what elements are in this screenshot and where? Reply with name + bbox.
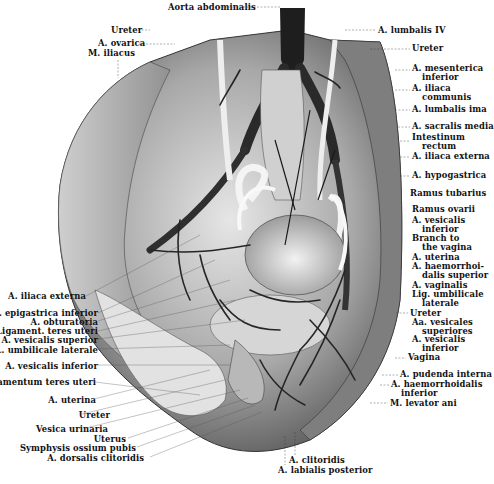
label-subline: dalis superior bbox=[412, 271, 488, 280]
label-l-umbilicale-laterale: L. umbilicale laterale bbox=[0, 346, 98, 355]
label-symphysis-ossium-pubis: Symphysis ossium pubis bbox=[20, 444, 136, 453]
label-a-haemorrhoidalis-superior: A. haemorrhoi-dalis superior bbox=[412, 262, 488, 280]
label-a-ovarica: A. ovarica bbox=[98, 39, 145, 48]
label-ureter-right-1: Ureter bbox=[412, 44, 443, 53]
label-a-clitoridis: A. clitoridis bbox=[289, 456, 345, 465]
label-a-uterina-left: A. uterina bbox=[48, 396, 96, 405]
label-subline: communis bbox=[412, 93, 471, 102]
label-a-vesicalis-inferior-right-1: A. vesicalisinferior bbox=[412, 216, 465, 234]
aorta bbox=[280, 8, 305, 70]
label-a-vesicalis-inferior-right-2: A. vesicalisinferior bbox=[412, 335, 465, 353]
label-a-mesenterica-inferior: A. mesentericainferior bbox=[412, 64, 483, 82]
label-vesica-urinaria: Vesica urinaria bbox=[36, 425, 108, 434]
label-a-vesicalis-superior: A. vesicalis superior bbox=[1, 336, 98, 345]
label-m-levator-ani: M. levator ani bbox=[390, 399, 457, 408]
label-a-iliaca-externa-right: A. iliaca externa bbox=[412, 152, 490, 161]
label-subline: rectum bbox=[412, 142, 465, 151]
label-m-iliacus: M. iliacus bbox=[88, 49, 135, 58]
label-ramus-ovarii: Ramus ovarii bbox=[412, 205, 475, 214]
label-a-labialis-posterior: A. labialis posterior bbox=[278, 466, 372, 475]
label-subline: inferior bbox=[391, 389, 482, 398]
label-aorta-abdominalis: Aorta abdominalis bbox=[168, 3, 256, 12]
label-a-iliaca-externa-left: A. iliaca externa bbox=[8, 292, 86, 301]
label-a-dorsalis-clitoridis: A. dorsalis clitoridis bbox=[47, 454, 144, 463]
label-intestinum-rectum: Intestinumrectum bbox=[412, 133, 465, 151]
label-a-pudenda-interna: A. pudenda interna bbox=[400, 370, 492, 379]
uterus bbox=[245, 215, 345, 295]
label-ligamentum-teres-uteri: Ligamentum teres uteri bbox=[0, 378, 96, 387]
label-lig-umbilicale-laterale-right: Lig. umbilicalelaterale bbox=[412, 290, 484, 308]
label-subline: the vagina bbox=[412, 243, 472, 252]
label-a-sacralis-media: A. sacralis media bbox=[412, 122, 494, 131]
label-a-hypogastrica: A. hypogastrica bbox=[412, 171, 486, 180]
label-a-lumbalis-ima: A. lumbalis ima bbox=[412, 105, 487, 114]
bladder bbox=[210, 295, 330, 355]
label-branch-to-vagina: Branch tothe vagina bbox=[412, 234, 472, 252]
label-ureter-left: Ureter bbox=[79, 411, 110, 420]
label-ramus-tubarius: Ramus tubarius bbox=[410, 189, 486, 198]
label-vagina: Vagina bbox=[408, 353, 440, 362]
label-subline: laterale bbox=[412, 299, 484, 308]
label-ureter-top-left: Ureter bbox=[111, 26, 142, 35]
label-subline: inferior bbox=[412, 73, 483, 82]
label-a-iliaca-communis: A. iliacacommunis bbox=[412, 84, 471, 102]
label-a-vesicalis-inferior-left: A. vesicalis inferior bbox=[5, 362, 98, 371]
label-a-lumbalis-iv: A. lumbalis IV bbox=[378, 26, 446, 35]
label-a-haemorrhoidalis-inferior: A. haemorrhoidalisinferior bbox=[391, 380, 482, 398]
